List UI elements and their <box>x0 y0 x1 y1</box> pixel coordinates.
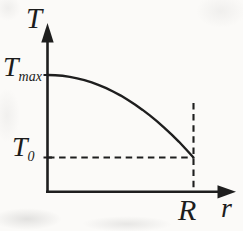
tmax-label-base: T <box>3 51 19 82</box>
y-axis-arrowhead-icon <box>41 23 53 43</box>
y-axis-label: T <box>26 4 42 33</box>
R-tick-label-text: R <box>178 193 196 226</box>
x-axis-label-text: r <box>221 192 232 223</box>
y-axis-label-text: T <box>26 2 42 34</box>
temperature-vs-radius-graph: T Tmax T0 R r <box>0 0 243 231</box>
x-axis-label: r <box>221 194 232 222</box>
R-tick-label: R <box>178 195 196 225</box>
temperature-curve <box>48 75 194 158</box>
plot-canvas <box>0 0 243 231</box>
tmax-label-subscript: max <box>19 69 42 84</box>
t0-label-base: T <box>12 131 28 162</box>
tmax-label: Tmax <box>3 53 42 84</box>
t0-label: T0 <box>12 133 35 164</box>
t0-label-subscript: 0 <box>28 149 35 164</box>
